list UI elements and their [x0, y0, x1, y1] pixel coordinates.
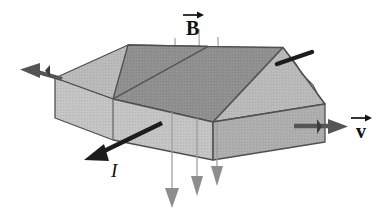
vector-arrow-v-icon [356, 113, 366, 122]
magnetic-field-symbol: B [186, 18, 199, 38]
current-label: I [111, 161, 117, 180]
field-arrowhead-2 [191, 176, 203, 196]
hall-effect-figure: B v I [0, 0, 390, 214]
vector-arrow-b-icon [186, 10, 199, 19]
velocity-symbol: v [356, 121, 366, 141]
field-exit-arrowheads [165, 166, 223, 208]
field-arrowhead-3 [211, 166, 223, 186]
velocity-vector-label: v [356, 113, 366, 141]
left-terminal-arrow [20, 63, 62, 79]
magnetic-field-vector-label: B [186, 10, 199, 38]
field-arrowhead-1 [165, 188, 179, 208]
